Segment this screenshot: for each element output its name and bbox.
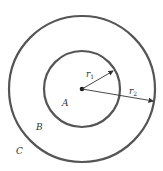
region-label-b: B <box>35 122 43 132</box>
region-label-a: A <box>61 98 69 108</box>
region-label-c: C <box>16 146 23 156</box>
concentric-circles-diagram: r1 r2 A B C <box>0 0 163 171</box>
label-r2: r2 <box>129 86 137 97</box>
label-r1: r1 <box>86 69 94 80</box>
